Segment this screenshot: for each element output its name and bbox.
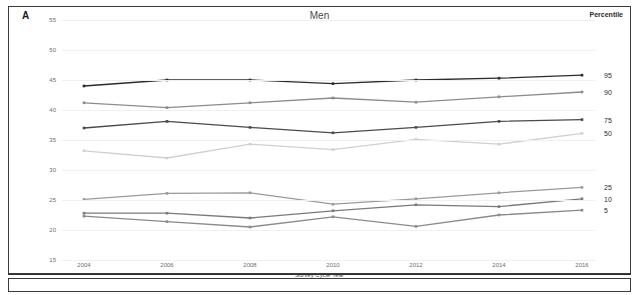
data-point <box>249 143 252 146</box>
data-point <box>83 85 86 88</box>
gridline <box>62 170 595 171</box>
x-axis-title: Survey Cycle Year <box>0 272 639 278</box>
legend-label-90: 90 <box>604 89 612 96</box>
legend-label-75: 75 <box>604 116 612 123</box>
data-point <box>249 102 252 105</box>
x-tick-label: 2010 <box>326 262 339 268</box>
y-tick-label: 15 <box>32 257 56 263</box>
data-point <box>498 192 501 195</box>
y-tick-label: 25 <box>32 197 56 203</box>
series-line-50 <box>84 133 582 158</box>
y-tick-label: 35 <box>32 137 56 143</box>
y-tick-label: 45 <box>32 77 56 83</box>
x-tick-label: 2012 <box>409 262 422 268</box>
gridline <box>62 110 595 111</box>
gridline <box>62 50 595 51</box>
data-point <box>581 118 584 121</box>
x-tick-label: 2004 <box>77 262 90 268</box>
data-point <box>498 96 501 99</box>
gridline <box>62 200 595 201</box>
data-point <box>581 74 584 77</box>
data-point <box>332 210 335 213</box>
data-point <box>498 205 501 208</box>
data-point <box>166 106 169 109</box>
footer-strip <box>8 278 631 292</box>
data-point <box>166 212 169 215</box>
legend-label-25: 25 <box>604 184 612 191</box>
plot-area <box>62 20 595 260</box>
data-point <box>166 120 169 123</box>
data-point <box>249 226 252 229</box>
data-point <box>498 120 501 123</box>
legend-label-50: 50 <box>604 130 612 137</box>
legend-label-10: 10 <box>604 195 612 202</box>
data-point <box>498 143 501 146</box>
gridline <box>62 230 595 231</box>
y-tick-label: 30 <box>32 167 56 173</box>
data-point <box>83 215 86 218</box>
data-point <box>83 102 86 105</box>
y-axis-ticks: 152025303540455055 <box>30 20 56 260</box>
y-tick-label: 20 <box>32 227 56 233</box>
series-line-75 <box>84 120 582 133</box>
data-point <box>166 192 169 195</box>
chart-screenshot: A Men Percentile Body Mass Index Survey … <box>0 0 639 295</box>
gridline <box>62 260 595 261</box>
data-point <box>166 220 169 223</box>
data-point <box>83 127 86 130</box>
y-tick-label: 40 <box>32 107 56 113</box>
data-point <box>581 186 584 189</box>
data-point <box>332 82 335 85</box>
data-point <box>581 132 584 135</box>
series-line-25 <box>84 187 582 204</box>
x-tick-label: 2008 <box>243 262 256 268</box>
data-point <box>415 101 418 104</box>
data-point <box>415 225 418 228</box>
data-point <box>332 97 335 100</box>
legend-label-5: 5 <box>604 207 608 214</box>
y-tick-label: 55 <box>32 17 56 23</box>
data-point <box>249 192 252 195</box>
x-tick-label: 2014 <box>492 262 505 268</box>
data-point <box>332 148 335 151</box>
data-point <box>332 216 335 219</box>
x-tick-label: 2006 <box>160 262 173 268</box>
data-point <box>415 204 418 207</box>
data-point <box>581 209 584 212</box>
data-point <box>166 157 169 160</box>
data-point <box>249 126 252 129</box>
gridline <box>62 20 595 21</box>
data-point <box>249 217 252 220</box>
gridline <box>62 80 595 81</box>
legend-label-95: 95 <box>604 72 612 79</box>
y-tick-label: 50 <box>32 47 56 53</box>
data-point <box>415 126 418 129</box>
data-point <box>498 214 501 217</box>
data-point <box>581 91 584 94</box>
gridline <box>62 140 595 141</box>
series-line-90 <box>84 92 582 108</box>
axis-rule <box>8 274 631 275</box>
data-point <box>332 132 335 135</box>
legend-header: Percentile <box>590 11 623 18</box>
data-point <box>83 150 86 153</box>
x-tick-label: 2016 <box>575 262 588 268</box>
data-point <box>332 203 335 206</box>
data-point <box>83 212 86 215</box>
